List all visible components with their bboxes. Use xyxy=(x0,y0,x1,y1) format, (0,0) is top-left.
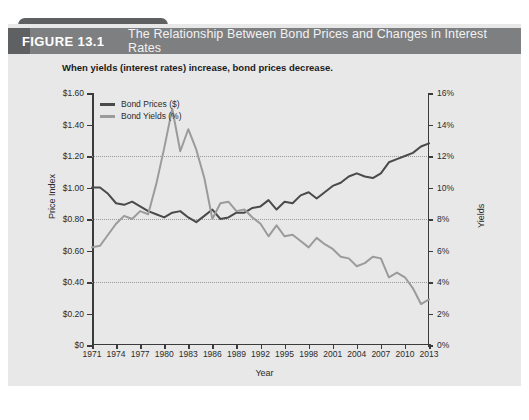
legend-swatch-prices xyxy=(100,103,115,106)
plot-area: $0$0.20$0.40$0.60$0.80$1.00$1.20$1.40$1.… xyxy=(92,93,429,345)
x-tick-label: 1980 xyxy=(155,349,174,359)
series-line-prices xyxy=(92,143,429,222)
figure-subtitle: When yields (interest rates) increase, b… xyxy=(62,62,333,73)
y-tick-label-right: 10% xyxy=(437,183,454,193)
chart-legend: Bond Prices ($) Bond Yields (%) xyxy=(100,98,181,122)
series-lines xyxy=(92,93,429,345)
x-tick-label: 2001 xyxy=(323,349,342,359)
y-tick-label-left: $1.20 xyxy=(63,151,84,161)
legend-label-yields: Bond Yields (%) xyxy=(121,111,181,121)
y-tick-label-left: $1.60 xyxy=(63,88,84,98)
legend-swatch-yields xyxy=(100,115,115,118)
x-tick-label: 1992 xyxy=(251,349,270,359)
y-tick-label-right: 12% xyxy=(437,151,454,161)
y-tick-label-right: 6% xyxy=(437,246,449,256)
legend-label-prices: Bond Prices ($) xyxy=(121,99,180,109)
y-tick-label-right: 16% xyxy=(437,88,454,98)
x-tick-label: 1989 xyxy=(227,349,246,359)
y-axis-title-left: Price Index xyxy=(47,174,57,219)
y-tick-label-right: 2% xyxy=(437,309,449,319)
y-tick-label-right: 14% xyxy=(437,120,454,130)
y-tick-label-right: 4% xyxy=(437,277,449,287)
x-tick-label: 2007 xyxy=(371,349,390,359)
y-axis-title-right: Yields xyxy=(476,204,486,228)
x-tick-label: 1995 xyxy=(275,349,294,359)
legend-item-yields: Bond Yields (%) xyxy=(100,110,181,122)
x-tick-label: 1986 xyxy=(203,349,222,359)
x-tick-label: 2010 xyxy=(395,349,414,359)
y-tick-label-right: 0% xyxy=(437,340,449,350)
y-tick-label-left: $0.20 xyxy=(63,309,84,319)
x-tick-label: 1983 xyxy=(179,349,198,359)
y-tick-label-left: $1.00 xyxy=(63,183,84,193)
x-tick-label: 1977 xyxy=(131,349,150,359)
x-tick-label: 1998 xyxy=(299,349,318,359)
x-tick-label: 1971 xyxy=(83,349,102,359)
legend-item-prices: Bond Prices ($) xyxy=(100,98,181,110)
x-tick-label: 1974 xyxy=(107,349,126,359)
y-tick-label-left: $0.80 xyxy=(63,214,84,224)
x-axis-title: Year xyxy=(0,368,529,378)
y-tick-label-left: $0.60 xyxy=(63,246,84,256)
figure-title: The Relationship Between Bond Prices and… xyxy=(128,28,517,54)
x-tick-label: 2013 xyxy=(420,349,439,359)
y-tick-label-left: $1.40 xyxy=(63,120,84,130)
x-tick-label: 2004 xyxy=(347,349,366,359)
figure-number: FIGURE 13.1 xyxy=(22,28,104,54)
y-tick-label-right: 8% xyxy=(437,214,449,224)
y-tick-label-left: $0.40 xyxy=(63,277,84,287)
